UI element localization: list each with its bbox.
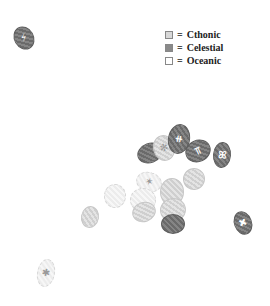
seal-glyph-icon: ꕤ xyxy=(218,150,227,161)
celestial-seal: ✖ xyxy=(230,209,255,238)
legend-item-oceanic: = Oceanic xyxy=(165,54,223,67)
celestial-seal: ⚡ xyxy=(9,23,38,54)
seal-glyph-icon: ⫪ xyxy=(193,145,203,157)
celestial-seal: ꕤ xyxy=(212,141,232,168)
cthonic-swatch xyxy=(165,31,173,39)
oceanic-seal: ✱ xyxy=(35,258,58,289)
cthonic-seal xyxy=(79,205,101,230)
celestial-swatch xyxy=(165,44,173,52)
legend-label: Celestial xyxy=(187,42,224,53)
cthonic-seal xyxy=(181,166,206,191)
seal-glyph-icon: ✶ xyxy=(144,176,155,188)
legend-label: Cthonic xyxy=(187,29,221,40)
equals-sign: = xyxy=(177,55,183,66)
equals-sign: = xyxy=(177,29,183,40)
legend: = Cthonic = Celestial = Oceanic xyxy=(165,28,223,67)
equals-sign: = xyxy=(177,42,183,53)
celestial-seal xyxy=(161,214,185,234)
legend-label: Oceanic xyxy=(187,55,221,66)
seal-glyph-icon: ⧺ xyxy=(174,133,184,144)
oceanic-seal xyxy=(104,184,126,208)
seal-glyph-icon: ✖ xyxy=(237,217,248,229)
legend-item-cthonic: = Cthonic xyxy=(165,28,223,41)
seal-glyph-icon: ✱ xyxy=(41,267,51,278)
legend-item-celestial: = Celestial xyxy=(165,41,223,54)
oceanic-swatch xyxy=(165,57,173,65)
seal-glyph-icon: ⚡ xyxy=(18,32,29,44)
